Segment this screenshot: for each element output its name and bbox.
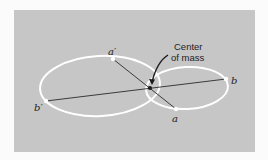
point-b: [224, 77, 228, 81]
label-a-prime: a′: [108, 46, 117, 57]
background-panel: [14, 10, 255, 152]
point-a-prime: [111, 57, 115, 61]
point-a: [174, 107, 178, 111]
dot-icon: [148, 86, 152, 90]
label-a: a: [172, 113, 178, 124]
point-b-prime: [44, 99, 48, 103]
annotation-line-2: of mass: [171, 52, 205, 63]
label-b: b: [231, 75, 237, 86]
annotation-line-1: Center: [174, 41, 203, 52]
label-b-prime: b′: [34, 102, 43, 113]
binary-orbit-diagram: Center of mass a′ b′ a b: [0, 0, 268, 160]
diagram-canvas: Center of mass a′ b′ a b: [0, 0, 268, 160]
